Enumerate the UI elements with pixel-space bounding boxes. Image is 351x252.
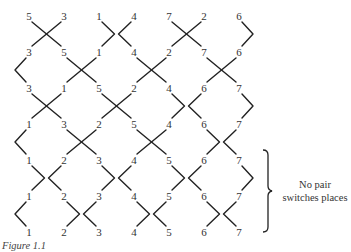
value-label: 2 [61, 154, 67, 166]
value-label: 3 [96, 190, 102, 202]
value-label: 6 [236, 10, 242, 22]
value-label: 6 [201, 154, 207, 166]
value-label: 4 [166, 118, 172, 130]
value-label: 5 [166, 154, 172, 166]
value-label: 3 [61, 118, 67, 130]
bounce-wire [67, 202, 80, 226]
value-label: 3 [96, 154, 102, 166]
value-label: 2 [166, 46, 172, 58]
edge-bounce-wire [15, 202, 26, 226]
edge-bounce-wire [15, 130, 26, 154]
annotation-no-pair-switches: No pair switches places [280, 178, 350, 204]
bounce-wire [119, 166, 132, 190]
bounce-wire [32, 166, 45, 190]
value-label: 3 [26, 82, 32, 94]
value-label: 1 [61, 82, 67, 94]
value-label: 1 [26, 118, 32, 130]
bounce-wire [154, 202, 167, 226]
bounce-wire [49, 166, 62, 190]
value-label: 7 [236, 154, 242, 166]
value-label: 2 [131, 82, 137, 94]
value-label: 4 [131, 10, 137, 22]
bounce-wire [137, 202, 150, 226]
bounce-wire [189, 94, 202, 118]
bounce-wire [224, 202, 237, 226]
value-label: 1 [26, 154, 32, 166]
value-label: 5 [61, 46, 67, 58]
value-label: 1 [96, 10, 102, 22]
value-label: 5 [166, 226, 172, 238]
edge-bounce-wire [242, 22, 253, 46]
value-label: 7 [201, 46, 207, 58]
value-label: 5 [26, 10, 32, 22]
value-label: 5 [166, 190, 172, 202]
edge-bounce-wire [242, 94, 253, 118]
value-label: 5 [131, 118, 137, 130]
value-label: 1 [26, 190, 32, 202]
value-label: 6 [201, 118, 207, 130]
value-label: 5 [96, 82, 102, 94]
bounce-wire [84, 202, 97, 226]
bounce-wire [207, 130, 220, 154]
edge-bounce-wire [242, 166, 253, 190]
value-label: 3 [26, 46, 32, 58]
value-label: 7 [236, 118, 242, 130]
bounce-wire [102, 22, 115, 46]
bounce-wire [172, 94, 185, 118]
value-label: 6 [201, 190, 207, 202]
value-label: 4 [166, 82, 172, 94]
value-label: 6 [201, 82, 207, 94]
value-label: 2 [201, 10, 207, 22]
value-label: 7 [166, 10, 172, 22]
edge-bounce-wire [15, 58, 26, 82]
value-label: 2 [96, 118, 102, 130]
value-label: 3 [96, 226, 102, 238]
value-label: 7 [236, 82, 242, 94]
value-label: 4 [131, 154, 137, 166]
annotation-line-2: switches places [280, 191, 350, 204]
bounce-wire [207, 202, 220, 226]
value-label: 6 [236, 46, 242, 58]
value-label: 2 [61, 226, 67, 238]
value-label: 7 [236, 190, 242, 202]
value-label: 1 [26, 226, 32, 238]
bounce-wire [102, 166, 115, 190]
brace-bracket [263, 150, 272, 232]
sorting-network-diagram: 5314726351427631524671325467123456712345… [0, 0, 351, 252]
annotation-line-1: No pair [280, 178, 350, 191]
value-label: 4 [131, 190, 137, 202]
value-label: 4 [131, 226, 137, 238]
figure-caption: Figure 1.1 [2, 240, 46, 251]
bounce-wire [224, 130, 237, 154]
bounce-wire [189, 166, 202, 190]
bounce-wire [172, 166, 185, 190]
value-label: 4 [131, 46, 137, 58]
value-label: 1 [96, 46, 102, 58]
value-label: 2 [61, 190, 67, 202]
bounce-wire [119, 22, 132, 46]
value-label: 7 [236, 226, 242, 238]
value-label: 6 [201, 226, 207, 238]
value-label: 3 [61, 10, 67, 22]
